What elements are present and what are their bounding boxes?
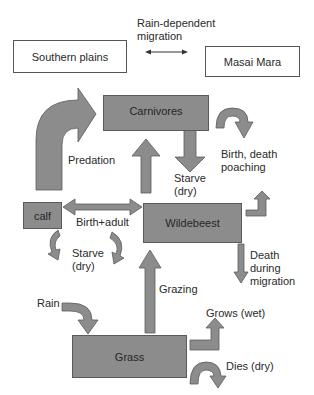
grass-grows-arrow-icon <box>190 318 224 350</box>
calf-label: calf <box>34 210 51 222</box>
death-migration-arrow-icon <box>234 244 248 283</box>
grazing-arrow-icon <box>139 250 161 333</box>
wildebeest-node: Wildebeest <box>143 203 242 243</box>
wildebeest-label: Wildebeest <box>165 217 219 229</box>
southern-plains-box: Southern plains <box>13 40 127 73</box>
predation-arrow-icon <box>36 88 96 190</box>
wildebeest-to-carnivores-arrow-icon <box>132 139 160 193</box>
grass-node: Grass <box>72 335 187 378</box>
calf-starve-arrow-right-icon <box>110 232 124 264</box>
calf-node: calf <box>23 202 62 229</box>
carnivore-starve-arrow-icon <box>175 125 205 172</box>
grass-dies-arrow-icon <box>190 362 226 388</box>
death-migration-label: Death during migration <box>250 249 295 288</box>
carnivores-label: Carnivores <box>129 105 182 117</box>
predation-label: Predation <box>68 154 115 167</box>
carnivore-starve-label: Starve (dry) <box>174 172 206 198</box>
masai-mara-box: Masai Mara <box>205 46 300 77</box>
grass-dies-label: Dies (dry) <box>226 360 274 373</box>
migration-label: Rain-dependent migration <box>137 17 215 43</box>
birth-adult-double-arrow-icon <box>63 199 142 215</box>
grazing-label: Grazing <box>159 283 198 296</box>
carnivore-birth-death-arrow-icon <box>216 108 253 138</box>
masai-mara-label: Masai Mara <box>224 56 281 68</box>
rain-label: Rain <box>37 297 60 310</box>
birth-adult-label: Birth+adult <box>76 216 129 229</box>
grass-grows-label: Grows (wet) <box>206 307 265 320</box>
southern-plains-label: Southern plains <box>32 51 108 63</box>
rain-arrow-icon <box>62 303 98 334</box>
wildebeest-birth-arrow-icon <box>246 191 270 216</box>
carnivore-birth-death-label: Birth, death poaching <box>221 148 277 174</box>
grass-label: Grass <box>115 351 144 363</box>
calf-starve-label: Starve (dry) <box>72 247 104 273</box>
migration-double-arrow-icon <box>145 50 188 55</box>
calf-starve-arrow-left-icon <box>48 230 60 260</box>
ecosystem-diagram: Southern plains Masai Mara Rain-dependen… <box>0 0 314 395</box>
carnivores-node: Carnivores <box>103 95 209 131</box>
